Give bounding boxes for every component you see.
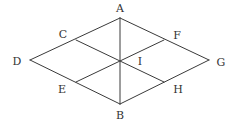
point-label-c: C [59, 28, 67, 41]
point-label-b: B [116, 109, 124, 122]
point-label-e: E [58, 83, 66, 96]
geometry-figure: ABDGCFEHI [0, 0, 239, 127]
rhombus-diagram: ABDGCFEHI [0, 0, 239, 127]
point-label-a: A [115, 2, 125, 15]
point-label-g: G [217, 56, 226, 69]
segment-ga [120, 18, 209, 60]
point-label-h: H [173, 83, 183, 96]
point-label-f: F [173, 29, 181, 42]
segment-db [30, 60, 120, 104]
point-label-d: D [13, 55, 22, 68]
segment-ad [30, 18, 120, 60]
point-label-i: I [138, 55, 142, 68]
